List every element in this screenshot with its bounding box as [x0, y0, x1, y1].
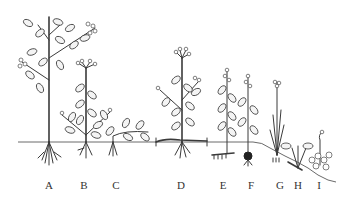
plant-c: [104, 117, 150, 156]
label-b: B: [80, 179, 87, 191]
label-a: A: [45, 179, 53, 191]
label-g: G: [276, 179, 284, 191]
label-i: I: [317, 179, 321, 191]
plant-e: [212, 68, 238, 159]
label-h: H: [294, 179, 302, 191]
plant-f: [236, 74, 259, 166]
plant-g: [270, 80, 284, 162]
plant-i: [309, 130, 332, 170]
plant-forms-figure: A B C D E F G H I: [0, 0, 349, 207]
plant-d: [156, 47, 207, 158]
label-f: F: [248, 179, 254, 191]
label-e: E: [220, 179, 227, 191]
label-d: D: [177, 179, 185, 191]
label-c: C: [112, 179, 119, 191]
plant-b: [60, 59, 112, 158]
plant-drawing: [0, 0, 349, 207]
